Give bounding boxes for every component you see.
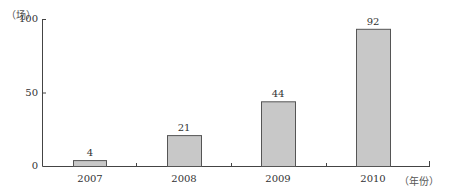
bar-chart: （场） 100 50 0 4 21 44 92 2007 2008 2009 2… xyxy=(0,0,449,193)
x-tick-label-2008: 2008 xyxy=(164,173,204,184)
x-tick-label-2007: 2007 xyxy=(70,173,110,184)
chart-plot-area xyxy=(0,0,449,193)
bar-value-2009: 44 xyxy=(261,88,295,99)
y-tick-label-100: 100 xyxy=(8,13,38,24)
y-tick-label-0: 0 xyxy=(8,160,38,171)
bar-2008 xyxy=(168,136,202,167)
bar-2007 xyxy=(74,161,107,167)
bar-value-2007: 4 xyxy=(73,147,107,158)
x-tick-label-2010: 2010 xyxy=(353,173,393,184)
x-tick-label-2009: 2009 xyxy=(258,173,298,184)
y-tick-label-50: 50 xyxy=(8,87,38,98)
bar-value-2010: 92 xyxy=(356,16,390,27)
bar-2009 xyxy=(262,102,296,167)
x-axis-label: （年份） xyxy=(399,173,439,188)
bar-2010 xyxy=(357,29,391,166)
bar-value-2008: 21 xyxy=(167,122,201,133)
